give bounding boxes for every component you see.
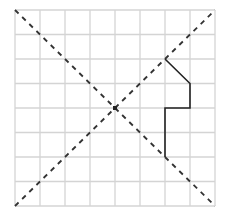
figure-polyline (165, 59, 190, 157)
center-dot (113, 106, 117, 110)
symmetry-grid-diagram (0, 0, 225, 220)
center-point (113, 106, 117, 110)
partial-figure (165, 59, 190, 157)
